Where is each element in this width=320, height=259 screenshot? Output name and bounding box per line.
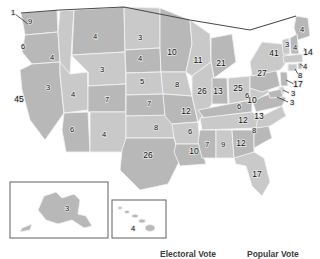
ev-label-wi: 11 bbox=[194, 55, 203, 65]
alaska-inset bbox=[10, 182, 108, 238]
state-shape-ne bbox=[126, 72, 163, 95]
ev-label-ne-d: 1 bbox=[11, 8, 15, 17]
ev-label-or: 6 bbox=[21, 42, 25, 51]
ev-label-ar: 6 bbox=[188, 127, 192, 136]
ev-label-al: 9 bbox=[221, 140, 225, 149]
ev-label-ms: 7 bbox=[205, 140, 209, 149]
ev-label-nm: 4 bbox=[102, 130, 106, 139]
state-shape-nm bbox=[90, 112, 126, 152]
caption-row: Electoral Vote Popular Vote bbox=[0, 242, 320, 256]
state-shape-nv bbox=[60, 62, 88, 113]
ev-label-ia: 8 bbox=[175, 80, 179, 89]
ev-label-mt: 4 bbox=[93, 32, 97, 41]
ev-label-tn: 12 bbox=[238, 115, 248, 125]
state-shape-md bbox=[268, 89, 283, 98]
ev-label-co: 7 bbox=[105, 95, 109, 104]
state-shape-ma bbox=[283, 54, 303, 63]
ev-label-de: 3 bbox=[291, 89, 295, 98]
ev-label-mi: 21 bbox=[216, 58, 226, 68]
ev-label-wy: 3 bbox=[100, 65, 104, 74]
ev-label-ca: 45 bbox=[14, 94, 24, 104]
state-shape-ks bbox=[126, 94, 165, 116]
state-shapes-layer bbox=[20, 7, 310, 196]
ev-label-nh: 4 bbox=[293, 43, 297, 52]
ev-label-ma: 14 bbox=[303, 47, 313, 57]
state-shape-ca bbox=[20, 62, 64, 140]
ev-label-ut: 4 bbox=[71, 90, 75, 99]
ev-label-me: 4 bbox=[300, 25, 304, 34]
ev-label-mo: 12 bbox=[181, 106, 191, 116]
ev-label-vt: 3 bbox=[285, 40, 289, 49]
ev-label-la: 10 bbox=[189, 146, 199, 156]
ev-label-il: 26 bbox=[197, 86, 207, 96]
hawaii-inset-box bbox=[112, 200, 166, 238]
state-shape-sd bbox=[125, 48, 161, 73]
state-shape-mt bbox=[72, 7, 125, 55]
ev-label-ga: 12 bbox=[236, 138, 246, 148]
ev-label-ri: 4 bbox=[303, 62, 307, 71]
ev-label-ky: 6 bbox=[237, 102, 241, 111]
state-shape-ri bbox=[298, 63, 302, 69]
ev-label-sd: 4 bbox=[138, 54, 142, 63]
ev-label-sc: 8 bbox=[252, 126, 256, 135]
state-shape-or bbox=[22, 32, 60, 64]
hawaii-inset bbox=[112, 200, 166, 238]
ev-label-wa: 9 bbox=[28, 17, 32, 26]
caption-popular-vote: Popular Vote bbox=[247, 249, 299, 259]
state-shape-ar bbox=[172, 122, 200, 144]
ev-label-mn: 10 bbox=[167, 47, 177, 57]
ev-label-ok: 8 bbox=[154, 123, 158, 132]
ev-label-ak: 3 bbox=[65, 204, 69, 213]
ev-label-nc: 13 bbox=[254, 111, 264, 121]
ev-label-nv: 3 bbox=[46, 83, 50, 92]
ev-label-md: 3 bbox=[290, 98, 294, 107]
state-shape-nj bbox=[280, 72, 288, 86]
ev-label-ne: 5 bbox=[140, 77, 144, 86]
ev-label-ny: 41 bbox=[269, 48, 279, 58]
state-shape-tx bbox=[120, 138, 180, 190]
ev-label-wv: 6 bbox=[245, 91, 249, 100]
caption-electoral-vote: Electoral Vote bbox=[160, 249, 216, 259]
ev-label-tx: 26 bbox=[143, 150, 153, 160]
ev-label-ks: 7 bbox=[147, 99, 151, 108]
ev-label-pa: 27 bbox=[257, 68, 267, 78]
ev-label-hi: 4 bbox=[131, 224, 135, 233]
ev-label-oh: 25 bbox=[233, 83, 243, 93]
state-shape-mi bbox=[211, 34, 236, 78]
ev-label-id: 4 bbox=[50, 53, 54, 62]
ev-label-nj: 17 bbox=[293, 79, 303, 89]
ev-label-in: 13 bbox=[213, 86, 223, 96]
state-shape-az bbox=[62, 112, 90, 152]
ev-label-fl: 17 bbox=[252, 169, 262, 179]
ev-label-nd: 3 bbox=[138, 33, 142, 42]
ev-label-az: 6 bbox=[70, 125, 74, 134]
